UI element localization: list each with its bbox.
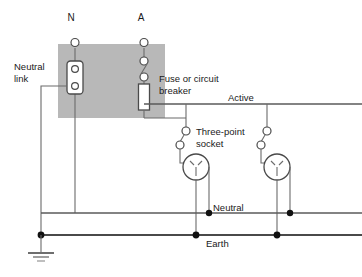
neutral-link-label-line1: Neutral <box>14 61 45 72</box>
switch-contact-lower <box>140 73 148 81</box>
terminal-label-n: N <box>67 12 74 23</box>
fuse-body <box>139 84 150 110</box>
neutral-link-terminal-top <box>72 66 79 73</box>
junction-earth-socket2 <box>274 232 281 239</box>
neutral-link-terminal-bottom <box>72 83 79 90</box>
junction-neutral-socket2 <box>287 210 293 216</box>
socket1-switch-contact-lower <box>176 141 184 149</box>
neutral-terminal-circle <box>71 39 79 47</box>
wiring-diagram-root: N A Neutral link Fuse or circuit breaker… <box>0 0 362 277</box>
fuse-label-line2: breaker <box>159 85 191 96</box>
active-terminal-circle <box>140 39 148 47</box>
socket2-switch-contact-upper <box>263 127 271 135</box>
socket2-switch-contact-lower <box>257 141 265 149</box>
neutral-link-label-line2: link <box>14 73 29 84</box>
active-bus-label: Active <box>228 92 254 103</box>
socket-label-line2: socket <box>196 138 224 149</box>
junction-neutral-socket1 <box>206 210 212 216</box>
switch-contact-upper <box>140 57 148 65</box>
junction-earth-socket1 <box>193 232 200 239</box>
socket-label-line1: Three-point <box>196 126 245 137</box>
neutral-bus-label: Neutral <box>213 202 244 213</box>
fuse-label-line1: Fuse or circuit <box>159 73 219 84</box>
circuit-diagram-svg: N A Neutral link Fuse or circuit breaker… <box>0 0 362 277</box>
earth-bus-label: Earth <box>206 238 229 249</box>
socket1-switch-contact-upper <box>182 127 190 135</box>
terminal-label-a: A <box>138 12 145 23</box>
